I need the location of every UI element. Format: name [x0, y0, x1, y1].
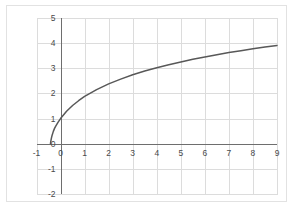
x-tick-label: 0 — [53, 149, 69, 158]
x-tick-label: 8 — [245, 149, 261, 158]
x-tick-label: 7 — [221, 149, 237, 158]
y-tick-label: 3 — [40, 64, 56, 73]
y-tick-label: -1 — [40, 165, 56, 174]
y-tick-label: 2 — [40, 89, 56, 98]
x-tick-label: 1 — [77, 149, 93, 158]
x-tick-label: 3 — [125, 149, 141, 158]
data-curve — [50, 45, 277, 143]
plot-canvas — [0, 0, 294, 208]
y-tick-label: 0 — [40, 140, 56, 149]
y-tick-label: 4 — [40, 39, 56, 48]
series-line-curve — [50, 45, 277, 143]
x-tick-label: 4 — [149, 149, 165, 158]
x-tick-label: 2 — [101, 149, 117, 158]
chart-figure: -10123456789 543210-1-2 — [0, 0, 294, 208]
x-tick-label: -1 — [29, 149, 45, 158]
y-tick-label: -2 — [40, 190, 56, 199]
x-tick-label: 6 — [197, 149, 213, 158]
y-tick-label: 5 — [40, 14, 56, 23]
x-tick-label: 9 — [269, 149, 285, 158]
x-tick-label: 5 — [173, 149, 189, 158]
y-tick-label: 1 — [40, 115, 56, 124]
